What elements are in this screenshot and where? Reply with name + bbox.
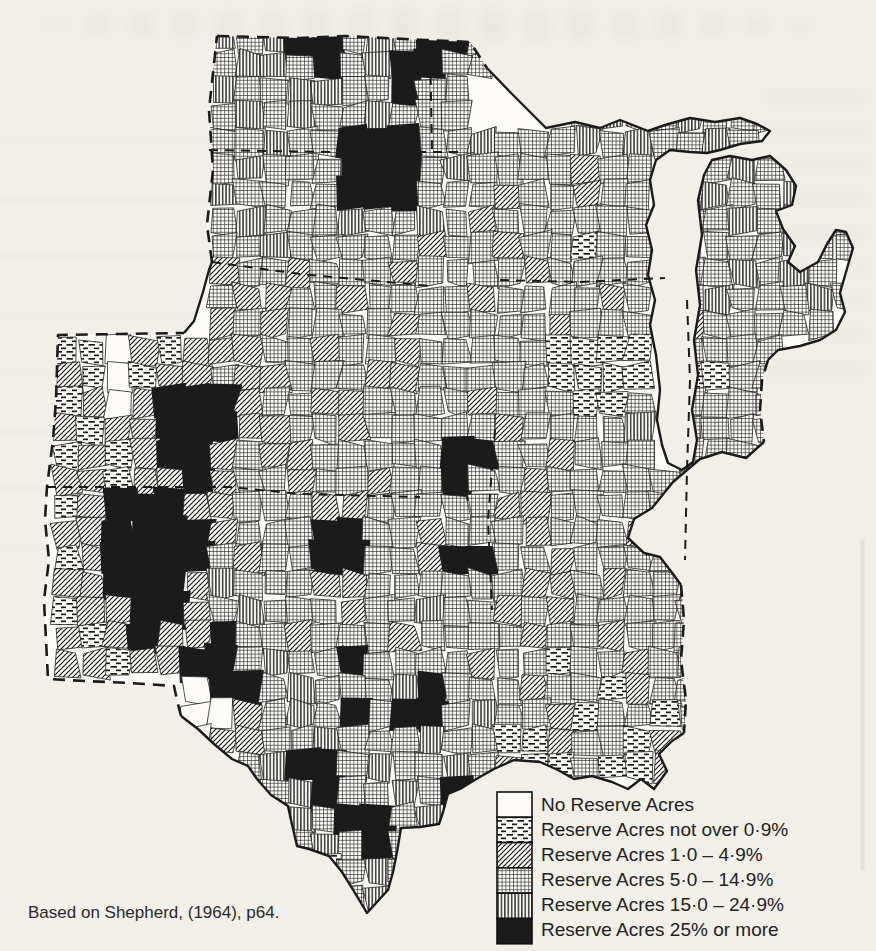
county-cell	[546, 439, 575, 471]
legend-swatch-15-24pct	[497, 893, 532, 918]
county-cell	[676, 490, 705, 524]
county-cell	[259, 416, 292, 445]
county-cell	[419, 127, 448, 158]
county-cell	[467, 600, 497, 626]
county-cell	[83, 366, 105, 388]
county-cell	[388, 831, 417, 859]
county-cell	[415, 256, 444, 288]
county-cell	[526, 517, 551, 546]
county-cell	[288, 651, 315, 674]
county-cell	[414, 492, 443, 516]
county-cell	[339, 259, 366, 288]
county-cell	[758, 208, 783, 234]
county-cell	[237, 236, 262, 258]
county-cell	[287, 439, 316, 471]
county-cell	[550, 233, 572, 262]
county-cell	[704, 467, 734, 492]
county-cell	[492, 361, 526, 393]
county-cell	[232, 491, 262, 523]
legend-label: Reserve Acres 1·0 – 4·9%	[541, 844, 763, 865]
legend-label: Reserve Acres not over 0·9%	[541, 819, 788, 840]
county-cell	[388, 598, 415, 622]
county-cell	[805, 209, 834, 235]
county-cell	[360, 175, 394, 210]
county-cell	[497, 286, 524, 313]
county-cell	[336, 776, 366, 807]
county-cell	[654, 750, 681, 784]
county-cell	[521, 754, 548, 784]
county-cell	[105, 415, 132, 442]
county-cell	[422, 620, 445, 651]
county-cell	[312, 491, 340, 524]
county-cell	[755, 282, 785, 311]
county-cell	[496, 649, 518, 680]
legend-swatch-0-9pct	[497, 817, 532, 842]
county-cell	[207, 491, 235, 518]
county-cell	[701, 361, 734, 390]
county-cell	[597, 698, 626, 728]
county-cell	[598, 471, 626, 493]
county-cell	[391, 72, 419, 106]
county-cell	[336, 624, 367, 648]
county-cell	[364, 439, 396, 471]
source-caption: Based on Shepherd, (1964), p64.	[28, 903, 279, 922]
legend-swatch-column	[497, 792, 532, 944]
county-cell	[363, 546, 394, 576]
legend-swatch-none	[497, 792, 532, 817]
county-cell	[285, 153, 314, 180]
county-cell	[623, 569, 655, 597]
county-cell	[778, 310, 808, 336]
county-cell	[419, 339, 443, 364]
choropleth-map-canvas: No Reserve Acres Reserve Acres not over …	[0, 0, 876, 951]
county-cell	[393, 235, 421, 261]
county-cell	[521, 413, 551, 439]
county-cell	[263, 648, 289, 676]
county-cell	[467, 283, 496, 312]
legend-swatch-5-14pct	[497, 868, 532, 893]
county-cell	[469, 516, 496, 546]
county-cell	[362, 51, 395, 79]
county-cell	[310, 78, 344, 105]
county-cell	[701, 418, 730, 440]
county-cell	[211, 728, 239, 753]
county-cell	[284, 620, 313, 654]
county-cell	[264, 600, 288, 622]
county-cell	[571, 673, 600, 703]
county-cell	[311, 388, 341, 415]
county-cell	[79, 340, 103, 366]
county-cell	[805, 232, 833, 259]
county-cell	[570, 155, 601, 185]
county-cell	[468, 622, 499, 649]
county-cell	[649, 546, 679, 571]
county-cell	[755, 158, 786, 181]
county-cell	[236, 206, 266, 238]
legend-label: Reserve Acres 15·0 – 24·9%	[541, 894, 784, 915]
county-cell	[466, 26, 493, 57]
county-cell	[441, 100, 472, 131]
county-cell	[77, 494, 108, 518]
county-cell	[259, 444, 290, 468]
county-cell	[446, 209, 467, 237]
map-root	[44, 19, 864, 914]
legend-label: Reserve Acres 25% or more	[541, 919, 779, 940]
county-cell	[626, 673, 650, 705]
county-cell	[367, 754, 393, 784]
county-cell	[626, 154, 652, 182]
county-cell	[287, 308, 312, 340]
county-cell	[210, 257, 241, 286]
county-cell	[416, 312, 446, 335]
county-cell	[680, 571, 704, 601]
legend-swatch-25pct	[497, 919, 532, 944]
county-cell	[263, 100, 286, 129]
county-cell	[265, 571, 288, 595]
county-cell	[521, 314, 546, 342]
county-cell	[51, 337, 77, 365]
county-cell	[364, 75, 389, 103]
county-cell	[650, 700, 681, 727]
county-cell	[467, 152, 498, 183]
county-cell	[551, 185, 574, 211]
county-cell	[130, 648, 158, 673]
county-cell	[599, 131, 624, 159]
county-cell	[316, 469, 338, 493]
county-cell	[311, 444, 340, 471]
